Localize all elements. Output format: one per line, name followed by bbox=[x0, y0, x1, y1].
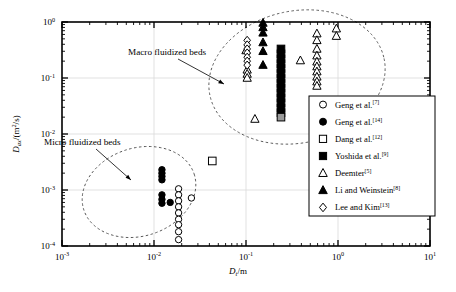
legend-label: Yoshida et al.[9] bbox=[335, 151, 388, 161]
macro-label-leader bbox=[178, 59, 224, 84]
macro-label: Macro fluidized beds bbox=[128, 47, 206, 57]
legend: Geng et al.[7]Geng et al.[14]Dang et al.… bbox=[309, 96, 435, 216]
data-point-open-square bbox=[319, 135, 326, 142]
data-point-filled-circle bbox=[159, 177, 165, 183]
x-axis-title: Dt/m bbox=[228, 266, 247, 277]
data-point-open-square bbox=[208, 157, 216, 165]
series-filled-triangle bbox=[259, 18, 267, 68]
x-tick-label: 100 bbox=[332, 250, 344, 262]
y-tick-label: 10-3 bbox=[41, 184, 55, 196]
data-point-filled-triangle bbox=[259, 61, 267, 69]
data-point-open-circle bbox=[175, 229, 181, 235]
data-point-open-circle bbox=[188, 195, 194, 201]
macro-label-arrowhead bbox=[218, 80, 224, 84]
data-point-open-circle bbox=[175, 192, 181, 198]
legend-label: Li and Weinstein[8] bbox=[335, 185, 400, 195]
data-point-open-circle bbox=[175, 186, 181, 192]
series-filled-square bbox=[277, 45, 285, 121]
x-tick-label: 10-1 bbox=[239, 250, 253, 262]
data-point-open-circle bbox=[175, 210, 181, 216]
data-point-open-circle bbox=[175, 222, 181, 228]
series-open-circle bbox=[175, 186, 194, 243]
y-axis-title: Dax/(m2/s) bbox=[10, 115, 23, 153]
data-point-filled-square bbox=[277, 113, 285, 121]
data-point-open-triangle bbox=[332, 32, 340, 40]
x-tick-label: 10-3 bbox=[55, 250, 69, 262]
y-tick-label: 10-4 bbox=[41, 240, 55, 252]
series-open-square bbox=[208, 157, 216, 165]
scatter-chart: 10-310-210-110010110-410-310-210-1100 Ma… bbox=[0, 0, 456, 292]
y-tick-label: 100 bbox=[43, 16, 55, 28]
data-point-open-circle bbox=[175, 236, 181, 242]
data-point-open-triangle bbox=[251, 115, 259, 123]
micro-label: Micro fluidized beds bbox=[44, 137, 121, 147]
data-point-filled-circle bbox=[320, 118, 327, 125]
x-tick-label: 101 bbox=[424, 250, 436, 262]
data-point-open-triangle bbox=[296, 56, 304, 64]
series-filled-circle bbox=[159, 167, 174, 207]
figure-container: 10-310-210-110010110-410-310-210-1100 Ma… bbox=[0, 0, 456, 292]
micro-label-leader bbox=[96, 149, 131, 180]
y-tick-label: 10-1 bbox=[41, 72, 55, 84]
series-open-diamond bbox=[244, 36, 251, 69]
data-point-open-circle bbox=[175, 204, 181, 210]
data-point-open-circle bbox=[320, 101, 327, 108]
x-tick-label: 10-2 bbox=[147, 250, 161, 262]
data-point-open-circle bbox=[175, 198, 181, 204]
data-point-filled-triangle bbox=[259, 47, 267, 55]
annotations: Macro fluidized bedsMicro fluidized beds bbox=[44, 47, 224, 180]
data-point-filled-triangle bbox=[259, 38, 267, 46]
data-point-filled-square bbox=[319, 152, 326, 159]
data-point-filled-circle bbox=[167, 199, 173, 205]
data-point-filled-circle bbox=[159, 200, 165, 206]
